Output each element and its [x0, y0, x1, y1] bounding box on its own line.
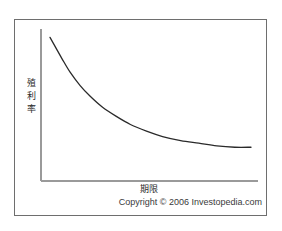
plot-area: 殖利率 期限 Copyright © 2006 Investopedia.com: [15, 20, 268, 217]
yield-curve-line: [50, 37, 251, 147]
figure-frame: 殖利率 期限 Copyright © 2006 Investopedia.com: [14, 19, 267, 216]
y-axis-label: 殖利率: [23, 77, 39, 116]
x-axis-label: 期限: [119, 183, 179, 195]
copyright-notice: Copyright © 2006 Investopedia.com: [119, 197, 262, 208]
